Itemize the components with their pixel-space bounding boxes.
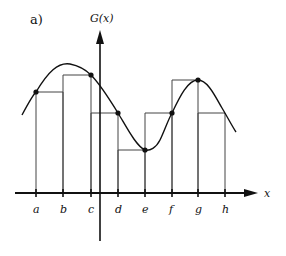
panel-label: a) [30,12,43,27]
point-d [115,110,120,115]
tick-label-d: d [115,203,122,216]
function-curve [22,64,236,150]
tick-label-f: f [168,203,175,216]
tick-label-b: b [60,203,67,216]
riemann-rectangle-d-e [118,150,145,193]
x-axis-label: x [264,187,271,200]
riemann-rectangle-b-c [63,75,91,193]
tick-label-g: g [195,203,202,216]
riemann-rectangle-e-f [145,113,172,193]
riemann-rectangle-g-h [198,113,225,193]
point-f [169,110,174,115]
point-c [88,72,93,77]
x-axis-arrow-icon [244,189,258,197]
riemann-rectangle-f-g [172,80,198,193]
tick-label-e: e [142,203,149,216]
tick-label-a: a [33,203,40,216]
riemann-rectangle-a-b [36,92,63,193]
riemann-rectangle-c-d [91,113,118,193]
point-e [142,147,147,152]
tick-label-c: c [88,203,94,216]
y-axis-arrow-icon [96,30,104,44]
y-axis-label: G(x) [90,12,114,25]
sample-points [33,72,200,152]
tick-label-h: h [222,203,229,216]
point-a [33,89,38,94]
riemann-sum-diagram: a) x G(x) abcdefgh [0,0,286,256]
point-g [195,77,200,82]
